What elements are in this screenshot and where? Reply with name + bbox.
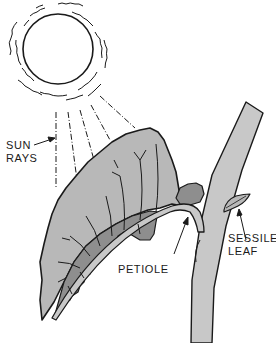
leaf-diagram <box>0 0 276 343</box>
sun-rays-label-line1: SUN <box>6 139 38 152</box>
sessile-leaf-label-line2: LEAF <box>228 245 276 258</box>
sessile-leaf-label: SESSILE LEAF <box>228 232 276 258</box>
petiole-label: PETIOLE <box>118 263 169 276</box>
sun-rays-label-line2: RAYS <box>6 152 38 165</box>
sun-icon <box>9 3 107 100</box>
sessile-leaf-label-line1: SESSILE <box>228 232 276 245</box>
leaf-upper-lobe <box>176 183 204 205</box>
sun-rays-label: SUN RAYS <box>6 139 38 165</box>
